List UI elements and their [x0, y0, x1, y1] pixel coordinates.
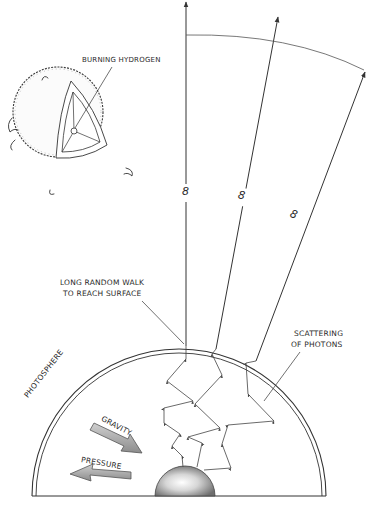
label-random-walk-line2: TO REACH SURFACE — [63, 289, 141, 299]
random-walk-leader — [142, 301, 184, 344]
infinity-mark-1: 8 — [182, 187, 189, 197]
photon-path-1 — [164, 346, 193, 467]
photon-path-2 — [188, 349, 222, 467]
label-scattering-line1: SCATTERING — [294, 329, 343, 339]
label-burning-hydrogen: BURNING HYDROGEN — [82, 55, 161, 65]
photon-paths — [164, 346, 274, 470]
escape-rays — [181, 2, 365, 361]
scattering-leader — [264, 352, 300, 401]
label-random-walk-line1: LONG RANDOM WALK — [60, 278, 144, 288]
photon-path-3 — [204, 361, 274, 470]
sun-cutaway — [8, 67, 132, 195]
core-dot — [71, 128, 77, 134]
diagram-canvas — [0, 0, 367, 513]
distance-arc — [186, 35, 364, 70]
escape-ray-middle — [216, 17, 278, 349]
label-scattering-line2: OF PHOTONS — [291, 340, 343, 350]
escape-ray-right — [256, 72, 365, 361]
core — [155, 466, 215, 496]
